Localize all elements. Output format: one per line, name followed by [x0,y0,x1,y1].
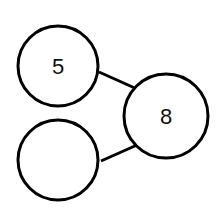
part-circle-bottom [18,120,98,200]
connector-line-top [99,72,137,89]
connector-line-bottom [101,145,137,161]
number-bond-diagram: 5 8 [0,0,221,208]
diagram-svg: 5 8 [0,0,221,208]
part-value-top: 5 [52,54,64,79]
whole-value: 8 [160,104,172,129]
